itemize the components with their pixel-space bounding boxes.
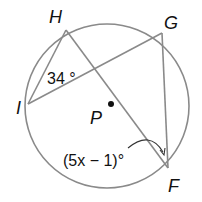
segment-IG bbox=[28, 33, 162, 104]
circle-diagram: H G I F P 34 ° (5x − 1)° bbox=[0, 0, 202, 202]
segment-HF bbox=[66, 30, 168, 168]
label-F: F bbox=[168, 176, 180, 196]
label-I: I bbox=[16, 98, 21, 118]
label-G: G bbox=[164, 13, 178, 33]
angle-label-I: 34 ° bbox=[47, 70, 76, 87]
segment-HI bbox=[28, 30, 66, 104]
label-H: H bbox=[49, 7, 63, 27]
label-P: P bbox=[90, 108, 102, 128]
segment-GF bbox=[162, 33, 168, 168]
center-dot-P bbox=[108, 101, 114, 107]
diagram-canvas: H G I F P 34 ° (5x − 1)° bbox=[0, 0, 202, 202]
angle-label-F: (5x − 1)° bbox=[63, 152, 124, 169]
angle-arc-F bbox=[128, 140, 163, 152]
